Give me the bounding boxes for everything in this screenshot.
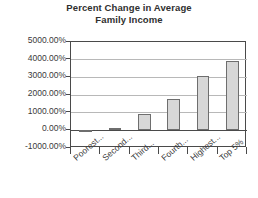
gridline	[71, 77, 247, 78]
bar	[226, 61, 239, 130]
bar-chart: Percent Change in Average Family Income …	[0, 0, 258, 198]
zero-baseline	[71, 130, 247, 131]
x-axis-tick-mark	[158, 147, 159, 154]
x-axis-tick-mark	[70, 147, 71, 154]
y-axis-tick-label: -1000.00%	[2, 142, 66, 151]
x-axis-tick-mark	[217, 147, 218, 154]
y-axis-tick-label: 5000.00%	[2, 36, 66, 45]
y-axis-tick-label: 3000.00%	[2, 71, 66, 80]
x-axis-tick-mark	[129, 147, 130, 154]
y-axis-tick-label: 2000.00%	[2, 89, 66, 98]
y-axis-tick-label: 4000.00%	[2, 54, 66, 63]
chart-title-line-2: Family Income	[0, 14, 258, 26]
y-axis-tick-label: 1000.00%	[2, 107, 66, 116]
bar	[138, 114, 151, 130]
bar	[109, 128, 122, 131]
chart-title: Percent Change in Average Family Income	[0, 2, 258, 25]
x-axis-tick-mark	[99, 147, 100, 154]
chart-title-line-1: Percent Change in Average	[66, 2, 191, 13]
x-axis-tick-mark	[187, 147, 188, 154]
x-axis-tick-mark	[246, 147, 247, 154]
gridline	[71, 95, 247, 96]
gridline	[71, 112, 247, 113]
bar	[79, 130, 92, 132]
plot-area	[70, 41, 246, 147]
gridline	[71, 59, 247, 60]
y-axis-tick-label: 0.00%	[2, 124, 66, 133]
bar	[197, 76, 210, 131]
bar	[167, 99, 180, 131]
